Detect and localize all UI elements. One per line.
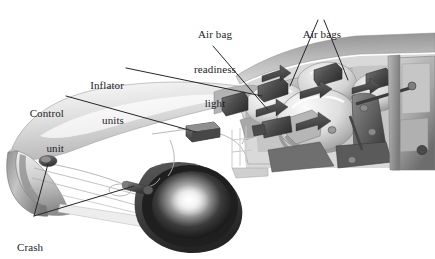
airbag-system-diagram: Air bag readiness light Air bags Inflato… bbox=[0, 0, 435, 259]
label-line: Air bag bbox=[178, 29, 252, 41]
sill-panel bbox=[232, 168, 268, 178]
label-line: Inflator bbox=[62, 80, 124, 92]
label-line: unit bbox=[4, 143, 64, 155]
console-fastener-2 bbox=[328, 127, 336, 134]
label-line: readiness bbox=[178, 64, 252, 76]
column-connector bbox=[252, 124, 266, 136]
seat-fastener-3 bbox=[348, 157, 356, 164]
label-airbag-readiness-light: Air bag readiness light bbox=[178, 6, 252, 133]
label-line: Control bbox=[4, 108, 64, 120]
label-line: Air bags bbox=[286, 29, 358, 41]
label-line: Crash bbox=[17, 242, 79, 254]
b-pillar bbox=[388, 55, 400, 170]
label-crash-sensors: Crash sensors bbox=[17, 219, 79, 259]
belt-anchor bbox=[408, 82, 416, 90]
label-control-unit: Control unit bbox=[4, 85, 64, 177]
label-inflator-units: Inflator units bbox=[62, 57, 124, 149]
label-air-bags: Air bags bbox=[286, 6, 358, 64]
label-line: units bbox=[62, 115, 124, 127]
door-speaker bbox=[417, 145, 427, 154]
label-line: light bbox=[178, 98, 252, 110]
seat-fastener-2 bbox=[368, 129, 376, 136]
seat-fastener-1 bbox=[360, 105, 368, 112]
wheel-highlight bbox=[170, 185, 210, 217]
